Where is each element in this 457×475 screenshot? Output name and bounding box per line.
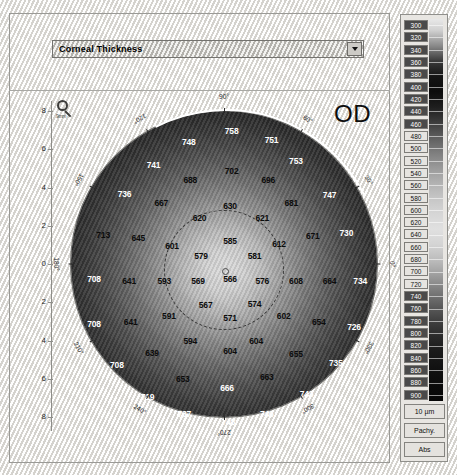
color-scale-label: 660: [404, 242, 428, 252]
degree-label: 180°: [53, 257, 60, 270]
thickness-value: 758: [225, 126, 239, 136]
thickness-value: 641: [124, 317, 138, 327]
color-scale-label: 440: [404, 106, 428, 116]
color-scale-tick: [429, 370, 443, 371]
y-axis-tick: [48, 341, 53, 342]
color-scale-panel: 3003203403603804004204404604805005205405…: [400, 14, 448, 462]
chevron-down-icon[interactable]: [347, 42, 362, 56]
color-scale-label: 800: [404, 328, 428, 338]
color-scale-label: 840: [404, 353, 428, 363]
color-scale-tick: [429, 383, 443, 384]
thickness-value: 708: [87, 319, 101, 329]
unit-button[interactable]: 10 µm: [404, 404, 445, 419]
thickness-value: 569: [191, 276, 205, 286]
color-scale-label: 320: [404, 32, 428, 42]
thickness-value: 746: [260, 409, 274, 419]
y-axis-tick: [48, 302, 53, 303]
thickness-value: 696: [262, 175, 276, 185]
thickness-value: 748: [182, 137, 196, 147]
degree-tick: [224, 108, 225, 112]
color-scale-label: 500: [404, 143, 428, 153]
scale-buttons: 10 µm Pachy. Abs: [404, 404, 445, 457]
color-scale-ticks: [429, 19, 443, 401]
thickness-value: 604: [223, 346, 237, 356]
color-scale-tick: [429, 173, 443, 174]
thickness-value: 735: [329, 358, 343, 368]
color-scale-tick: [429, 87, 443, 88]
thickness-map[interactable]: 7487587517417536887026967366676817476306…: [71, 111, 377, 417]
thickness-value: 641: [122, 276, 136, 286]
thickness-value: 753: [289, 156, 303, 166]
thickness-value: 571: [223, 313, 237, 323]
color-scale-tick: [429, 358, 443, 359]
thickness-value: 741: [147, 160, 161, 170]
thickness-value: 591: [162, 311, 176, 321]
thickness-value: 581: [248, 251, 262, 261]
color-scale-label: 360: [404, 57, 428, 67]
degree-label: 270°: [217, 429, 230, 436]
y-axis-tick-label: 2: [32, 297, 46, 306]
thickness-value: 688: [184, 175, 198, 185]
thickness-value: 734: [353, 276, 367, 286]
thickness-value: 702: [225, 166, 239, 176]
thickness-value: 620: [193, 213, 207, 223]
color-scale-label: 480: [404, 131, 428, 141]
thickness-value: 681: [285, 198, 299, 208]
color-scale-label: 540: [404, 168, 428, 178]
y-axis-tick: [48, 226, 53, 227]
color-scale-label: 780: [404, 316, 428, 326]
color-scale-tick: [429, 74, 443, 75]
color-scale-tick: [429, 136, 443, 137]
color-scale-label: 400: [404, 82, 428, 92]
color-scale-tick: [429, 395, 443, 396]
map-type-dropdown[interactable]: Corneal Thickness: [52, 40, 364, 58]
color-scale-label: 300: [404, 20, 428, 30]
color-scale-tick: [429, 161, 443, 162]
color-scale-label: 620: [404, 217, 428, 227]
color-scale-label: 760: [404, 303, 428, 313]
color-scale-tick: [429, 210, 443, 211]
color-scale-label: 880: [404, 377, 428, 387]
color-scale-tick: [429, 37, 443, 38]
y-axis-tick: [48, 417, 53, 418]
color-scale-label: 340: [404, 45, 428, 55]
y-axis-tick: [48, 379, 53, 380]
degree-tick: [224, 416, 225, 420]
color-scale-tick: [429, 222, 443, 223]
thickness-value: 654: [312, 317, 326, 327]
color-scale-tick: [429, 198, 443, 199]
color-scale-label: 740: [404, 291, 428, 301]
thickness-value: 666: [220, 383, 234, 393]
thickness-value: 621: [255, 213, 269, 223]
y-axis-tick: [48, 111, 53, 112]
color-scale-tick: [429, 284, 443, 285]
thickness-value: 567: [199, 300, 213, 310]
thickness-value: 639: [145, 348, 159, 358]
color-scale-label: 640: [404, 229, 428, 239]
color-scale-tick: [429, 247, 443, 248]
application-root: Corneal Thickness 9mm OD 864202468 86420…: [0, 0, 457, 475]
color-scale-tick: [429, 333, 443, 334]
thickness-value: 585: [223, 236, 237, 246]
y-axis-tick-label: 8: [32, 412, 46, 421]
color-scale-label: 680: [404, 254, 428, 264]
abs-button[interactable]: Abs: [404, 442, 445, 457]
thickness-value: 574: [248, 299, 262, 309]
color-scale-label: 820: [404, 340, 428, 350]
thickness-value: 663: [260, 372, 274, 382]
color-scale-label: 700: [404, 266, 428, 276]
thickness-disc: [71, 111, 377, 417]
thickness-value: 655: [289, 349, 303, 359]
y-axis-tick-label: 4: [32, 183, 46, 192]
thickness-value: 576: [255, 276, 269, 286]
thickness-value: 708: [110, 360, 124, 370]
thickness-value: 602: [277, 311, 291, 321]
thickness-value: 612: [272, 239, 286, 249]
pachy-button[interactable]: Pachy.: [404, 423, 445, 438]
thickness-value: 593: [158, 276, 172, 286]
y-axis-tick-label: 2: [32, 221, 46, 230]
color-scale-tick: [429, 321, 443, 322]
thickness-value: 608: [289, 276, 303, 286]
thickness-value: 604: [249, 336, 263, 346]
degree-label: 0°: [389, 261, 396, 267]
